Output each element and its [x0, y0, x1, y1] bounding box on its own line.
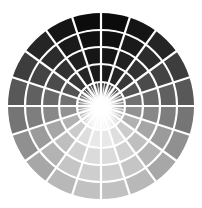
wheel-grid-lines [7, 12, 195, 200]
grayscale-wheel [0, 0, 202, 208]
wheel-graphic [0, 0, 202, 208]
